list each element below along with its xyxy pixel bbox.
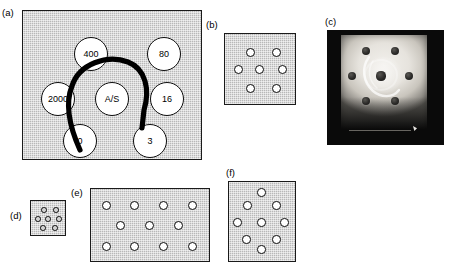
well[interactable] bbox=[272, 235, 281, 244]
well[interactable] bbox=[272, 84, 281, 93]
photo-scratch bbox=[349, 130, 411, 131]
panel-d-label: (d) bbox=[10, 211, 22, 221]
panel-c: (c) bbox=[327, 30, 444, 145]
well[interactable] bbox=[145, 221, 154, 230]
well[interactable] bbox=[159, 242, 168, 251]
figure-immunodiffusion-panels: (a) 400 80 2000 A/S 16 0 3 (b) bbox=[0, 0, 459, 272]
well[interactable] bbox=[257, 188, 266, 197]
panel-a: (a) 400 80 2000 A/S 16 0 3 bbox=[22, 10, 202, 160]
well[interactable] bbox=[272, 48, 281, 57]
well[interactable] bbox=[242, 235, 251, 244]
well[interactable] bbox=[102, 242, 111, 251]
well[interactable] bbox=[116, 221, 125, 230]
well[interactable] bbox=[159, 201, 168, 210]
photo-well-center[interactable] bbox=[376, 71, 385, 80]
panel-c-photograph bbox=[327, 30, 444, 145]
well[interactable] bbox=[246, 48, 255, 57]
panel-f-label: (f) bbox=[226, 168, 235, 178]
panel-e-label: (e) bbox=[71, 188, 83, 198]
well[interactable] bbox=[257, 245, 266, 254]
precipitin-arc bbox=[22, 10, 202, 160]
well[interactable] bbox=[243, 201, 252, 210]
well[interactable] bbox=[272, 201, 281, 210]
well[interactable] bbox=[174, 221, 183, 230]
well[interactable] bbox=[40, 225, 46, 231]
well[interactable] bbox=[130, 201, 139, 210]
well[interactable] bbox=[255, 65, 264, 74]
well[interactable] bbox=[45, 216, 51, 222]
well[interactable] bbox=[130, 242, 139, 251]
well[interactable] bbox=[234, 65, 243, 74]
well[interactable] bbox=[233, 218, 242, 227]
well[interactable] bbox=[257, 218, 266, 227]
precipitin-arc-path bbox=[68, 59, 146, 150]
panel-b: (b) bbox=[224, 33, 296, 105]
panel-c-label: (c) bbox=[325, 17, 336, 27]
panel-e: (e) bbox=[90, 188, 210, 262]
panel-d: (d) bbox=[30, 200, 66, 236]
well[interactable] bbox=[53, 207, 59, 213]
well[interactable] bbox=[246, 84, 255, 93]
well[interactable] bbox=[102, 201, 111, 210]
well[interactable] bbox=[35, 216, 41, 222]
panel-f: (f) bbox=[228, 181, 296, 262]
panel-b-label: (b) bbox=[206, 20, 218, 30]
well[interactable] bbox=[52, 225, 58, 231]
well[interactable] bbox=[188, 201, 197, 210]
panel-a-label: (a) bbox=[2, 8, 14, 18]
well[interactable] bbox=[278, 65, 287, 74]
well[interactable] bbox=[280, 218, 289, 227]
well[interactable] bbox=[41, 207, 47, 213]
well[interactable] bbox=[188, 242, 197, 251]
well[interactable] bbox=[56, 216, 62, 222]
